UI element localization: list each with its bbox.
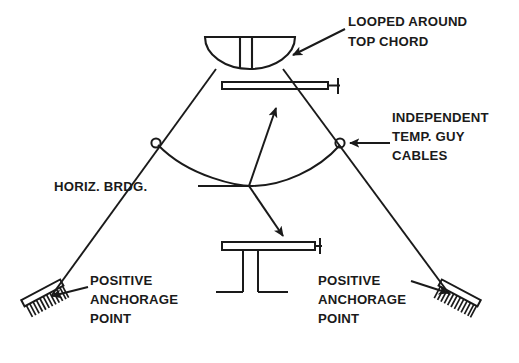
independent-guy-line-1: INDEPENDENT (392, 110, 489, 125)
positive-anchorage-point-right-label: POSITIVE ANCHORAGE POINT (318, 273, 406, 326)
horizontal-bridging-arc (158, 145, 340, 186)
cable-junction-node-left (151, 138, 160, 147)
looped-around-line-1: LOOPED AROUND (348, 14, 467, 29)
positive-anchorage-point-left-label: POSITIVE ANCHORAGE POINT (90, 273, 178, 326)
guy-cable-right (283, 69, 450, 295)
diagram-root: LOOPED AROUND TOP CHORD INDEPENDENT TEMP… (0, 0, 519, 363)
horizontal-bridging-label: HORIZ. BRDG. (54, 179, 147, 194)
independent-guy-line-3: CABLES (392, 148, 447, 163)
independent-temp-guy-cables-label: INDEPENDENT TEMP. GUY CABLES (392, 110, 489, 163)
horiz-brdg-line-1: HORIZ. BRDG. (54, 179, 147, 194)
leader-horiz-brdg (198, 108, 283, 236)
looped-around-top-chord-label: LOOPED AROUND TOP CHORD (348, 14, 467, 49)
cable-loop-bowl (205, 37, 295, 69)
bridging-beam-section-detail (216, 238, 322, 292)
leader-looped-around (293, 29, 345, 55)
anchorage-hatch-right (432, 279, 480, 317)
top-chord-beam-section (222, 78, 340, 94)
anchorage-right-line-3: POINT (318, 311, 359, 326)
anchorage-right-line-1: POSITIVE (318, 273, 380, 288)
anchorage-left-line-3: POINT (90, 311, 131, 326)
independent-guy-line-2: TEMP. GUY (392, 129, 465, 144)
looped-around-line-2: TOP CHORD (348, 34, 428, 49)
technical-diagram-figure: LOOPED AROUND TOP CHORD INDEPENDENT TEMP… (0, 0, 519, 363)
anchorage-hatch-left (21, 279, 69, 317)
anchorage-left-line-1: POSITIVE (90, 273, 152, 288)
anchorage-right-line-2: ANCHORAGE (318, 292, 406, 307)
anchorage-left-line-2: ANCHORAGE (90, 292, 178, 307)
